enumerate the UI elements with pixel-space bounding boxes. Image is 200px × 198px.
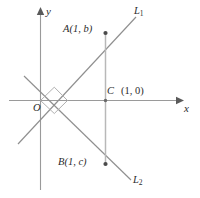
y-axis-label: y [46,6,51,17]
y-axis-arrowhead [37,7,44,15]
x-axis-arrowhead [176,97,184,104]
line-L1-label: L1 [134,6,144,17]
point-B-label: B(1, c) [58,157,87,168]
origin-label: O [33,103,41,114]
line-L1 [18,17,136,144]
point-A-label: A(1, b) [63,24,92,35]
line-L1-label-subscript: 1 [140,9,144,18]
point-C-marker [104,99,107,102]
point-C-label: C [107,86,114,97]
figure-canvas [0,0,200,198]
point-B-marker [103,162,107,166]
line-L2-label: L2 [133,175,143,186]
point-C-coords-label: (1, 0) [121,86,144,97]
line-L2-label-subscript: 2 [139,178,143,187]
point-A-marker [103,31,107,35]
geometry-figure: x y O A(1, b) C (1, 0) B(1, c) L1 L2 [0,0,200,198]
x-axis-label: x [184,103,189,114]
